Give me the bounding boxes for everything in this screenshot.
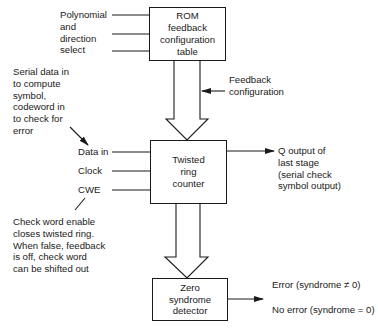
rom-line-4: table: [160, 46, 215, 58]
serial-data-leader: [70, 127, 88, 145]
q-output-label: Q output of last stage (serial check sym…: [278, 145, 341, 192]
rom-line-1: ROM: [160, 10, 215, 22]
counter-to-detector-bus-arrow: [165, 203, 208, 278]
counter-line-3: counter: [172, 178, 205, 190]
detector-line-3: detector: [169, 305, 211, 317]
cwe-note: Check word enable closes twisted ring. W…: [13, 216, 105, 275]
rom-line-2: feedback: [160, 22, 215, 34]
rom-feedback-table-block: ROM feedback configuration table: [149, 7, 226, 61]
detector-line-2: syndrome: [169, 294, 211, 306]
data-in-label: Data in: [78, 146, 108, 158]
serial-data-note: Serial data in to compute symbol, codewo…: [13, 66, 69, 137]
feedback-configuration-label: Feedback configuration: [229, 74, 284, 98]
polynomial-select-label: Polynomial and direction select: [60, 9, 107, 56]
counter-line-2: ring: [172, 166, 205, 178]
zero-syndrome-detector-block: Zero syndrome detector: [152, 278, 228, 321]
clock-label: Clock: [78, 165, 102, 177]
cwe-note-leader: [75, 198, 85, 210]
no-error-label: No error (syndrome = 0): [272, 304, 375, 316]
rom-line-3: configuration: [160, 34, 215, 46]
cwe-label: CWE: [78, 184, 100, 196]
twisted-ring-counter-block: Twisted ring counter: [150, 140, 227, 204]
counter-line-1: Twisted: [172, 154, 205, 166]
detector-line-1: Zero: [169, 282, 211, 294]
block-diagram: ROM feedback configuration table Twisted…: [0, 0, 378, 328]
error-label: Error (syndrome ≠ 0): [272, 279, 360, 291]
rom-to-counter-bus-arrow: [166, 60, 208, 140]
